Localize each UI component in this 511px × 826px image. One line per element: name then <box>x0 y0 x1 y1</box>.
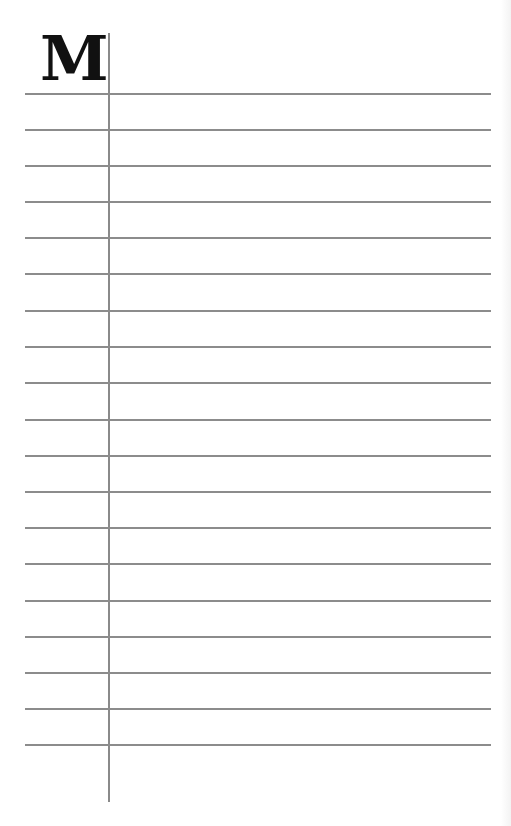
ruled-line <box>25 708 491 710</box>
ruled-line <box>25 419 491 421</box>
ruled-line <box>25 455 491 457</box>
ruled-line <box>25 744 491 746</box>
ruled-line <box>25 672 491 674</box>
ruled-line <box>25 237 491 239</box>
ruled-line <box>25 273 491 275</box>
ruled-line <box>25 201 491 203</box>
ruled-line <box>25 93 491 95</box>
notebook-page: M <box>0 0 511 826</box>
ruled-line <box>25 491 491 493</box>
page-edge-shadow <box>501 0 511 826</box>
index-letter-text: M <box>40 22 109 95</box>
vertical-margin-line <box>108 33 110 802</box>
index-letter-heading: M <box>40 24 92 94</box>
ruled-line <box>25 129 491 131</box>
ruled-line <box>25 636 491 638</box>
ruled-line <box>25 310 491 312</box>
ruled-line <box>25 346 491 348</box>
ruled-line <box>25 600 491 602</box>
ruled-line <box>25 382 491 384</box>
ruled-line <box>25 563 491 565</box>
ruled-line <box>25 527 491 529</box>
ruled-line <box>25 165 491 167</box>
